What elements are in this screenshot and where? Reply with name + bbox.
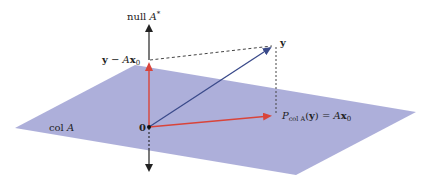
null-a-star-label: null A* [127,10,161,22]
y-label: y [279,37,287,48]
diagram-canvas: null A* y − Ax0 y 0 col A Pcol A(y) = Ax… [0,0,436,187]
projection-diagram: null A* y − Ax0 y 0 col A Pcol A(y) = Ax… [0,0,436,187]
origin-dot [147,125,151,129]
origin-label: 0 [139,122,146,133]
residual-label: y − Ax0 [101,54,140,67]
col-a-label: col A [49,122,74,133]
col-a-plane [15,65,416,175]
